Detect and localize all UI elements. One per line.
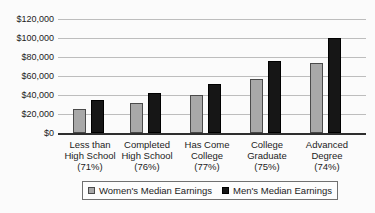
legend: Women's Median Earnings Men's Median Ear…	[82, 181, 338, 200]
y-tick-label: $0	[44, 128, 54, 138]
men-swatch-icon	[222, 187, 229, 194]
x-axis-label-line: (74%)	[291, 161, 363, 172]
women-bar-1	[130, 103, 143, 133]
men-bar-2	[208, 84, 221, 133]
bar-group	[190, 19, 222, 133]
y-tick-label: $120,000	[16, 14, 54, 24]
women-swatch-icon	[88, 187, 95, 194]
women-bar-2	[190, 95, 203, 133]
x-axis-labels: Less thanHigh School(71%)CompletedHigh S…	[0, 139, 375, 175]
women-bar-4	[310, 63, 323, 133]
legend-men-label: Men's Median Earnings	[233, 185, 332, 196]
men-bar-4	[328, 38, 341, 133]
bar-group	[310, 19, 342, 133]
women-bar-0	[73, 109, 86, 133]
legend-item-women: Women's Median Earnings	[88, 185, 212, 196]
bar-group	[73, 19, 105, 133]
bar-group	[250, 19, 282, 133]
women-bar-3	[250, 79, 263, 133]
x-axis-label-line: Advanced	[291, 139, 363, 150]
x-axis-category-label: AdvancedDegree(74%)	[291, 139, 363, 172]
y-tick-label: $60,000	[21, 71, 54, 81]
plot-area	[58, 19, 366, 135]
men-bar-3	[268, 61, 281, 133]
legend-item-men: Men's Median Earnings	[222, 185, 332, 196]
y-tick-label: $100,000	[16, 33, 54, 43]
y-tick-label: $80,000	[21, 52, 54, 62]
y-axis: $120,000$100,000$80,000$60,000$40,000$20…	[0, 19, 54, 139]
men-bar-0	[91, 100, 104, 133]
x-axis-label-line: Degree	[291, 150, 363, 161]
legend-women-label: Women's Median Earnings	[99, 185, 212, 196]
y-tick-label: $20,000	[21, 109, 54, 119]
y-tick-label: $40,000	[21, 90, 54, 100]
bar-chart: $120,000$100,000$80,000$60,000$40,000$20…	[0, 0, 375, 213]
bar-group	[130, 19, 162, 133]
men-bar-1	[148, 93, 161, 133]
